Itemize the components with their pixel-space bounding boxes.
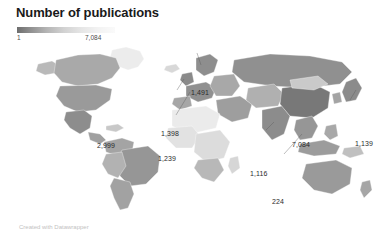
map-label-southeast-asia: 224 [272,198,284,205]
page-title: Number of publications [16,5,159,20]
world-map: 7,084 2,999 1,491 1,398 1,239 1,139 1,11… [0,42,391,214]
map-label-united-states: 2,999 [97,142,115,149]
datawrapper-choropleth-figure: Number of publications 1 7,084 [0,0,391,246]
map-label-united-kingdom: 1,398 [161,130,179,137]
datawrapper-credit: Created with Datawrapper [19,224,89,230]
legend-min-label: 1 [17,34,21,41]
map-label-china: 7,084 [292,141,310,148]
legend-max-label: 7,084 [85,34,101,41]
country-korea [332,92,342,104]
map-label-india: 1,116 [250,170,268,177]
map-label-western-europe: 1,239 [158,155,176,162]
map-label-japan: 1,139 [355,140,373,147]
world-map-svg [0,42,391,214]
legend-gradient-bar [17,27,115,33]
map-label-northern-europe: 1,491 [191,89,209,96]
